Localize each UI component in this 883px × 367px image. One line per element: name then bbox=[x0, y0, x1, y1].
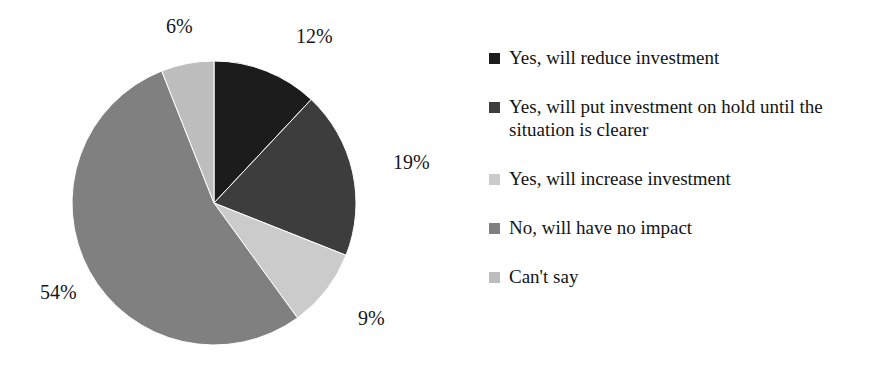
chart-legend: Yes, will reduce investment Yes, will pu… bbox=[489, 46, 871, 288]
pie-plot-area: 12% 19% 9% 54% 6% bbox=[0, 0, 470, 367]
legend-item-label: Yes, will increase investment bbox=[509, 167, 731, 190]
slice-value-label-increase-investment: 9% bbox=[358, 308, 385, 328]
pie-slice-group bbox=[72, 61, 356, 345]
legend-item-label: Yes, will reduce investment bbox=[509, 46, 719, 69]
legend-item-reduce-investment: Yes, will reduce investment bbox=[489, 46, 871, 69]
legend-item-cant-say: Can't say bbox=[489, 265, 871, 288]
pie-chart-figure: 12% 19% 9% 54% 6% Yes, will reduce inves… bbox=[0, 0, 883, 367]
legend-swatch-icon bbox=[489, 272, 500, 283]
legend-item-no-impact: No, will have no impact bbox=[489, 216, 871, 239]
slice-value-label-on-hold: 19% bbox=[393, 152, 430, 172]
pie-svg bbox=[0, 0, 470, 367]
slice-value-label-no-impact: 54% bbox=[40, 282, 77, 302]
legend-swatch-icon bbox=[489, 174, 500, 185]
legend-swatch-icon bbox=[489, 53, 500, 64]
legend-item-label: Can't say bbox=[509, 265, 578, 288]
slice-value-label-cant-say: 6% bbox=[166, 16, 193, 36]
legend-item-label: No, will have no impact bbox=[509, 216, 692, 239]
legend-item-on-hold: Yes, will put investment on hold until t… bbox=[489, 95, 871, 141]
legend-item-label: Yes, will put investment on hold until t… bbox=[509, 95, 861, 141]
legend-swatch-icon bbox=[489, 102, 500, 113]
legend-swatch-icon bbox=[489, 223, 500, 234]
legend-item-increase-investment: Yes, will increase investment bbox=[489, 167, 871, 190]
slice-value-label-reduce-investment: 12% bbox=[296, 26, 333, 46]
